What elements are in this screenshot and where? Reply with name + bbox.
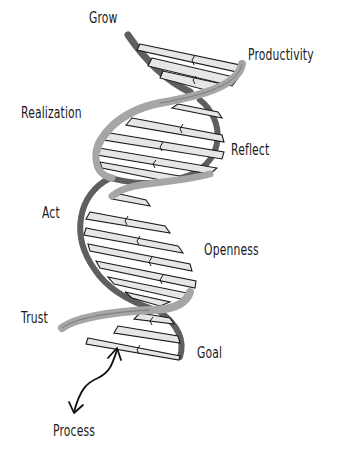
label-openness: Openness <box>204 243 259 258</box>
double-headed-wavy-arrow <box>69 348 121 413</box>
label-reflect: Reflect <box>231 143 269 158</box>
label-act: Act <box>42 206 60 221</box>
label-process: Process <box>53 424 95 439</box>
label-grow: Grow <box>89 11 118 26</box>
label-goal: Goal <box>197 346 222 361</box>
label-realization: Realization <box>21 106 82 121</box>
label-productivity: Productivity <box>248 48 314 63</box>
helix-graphic <box>0 0 345 459</box>
dna-helix-diagram: Grow Productivity Realization Reflect Ac… <box>0 0 345 459</box>
label-trust: Trust <box>21 311 48 326</box>
